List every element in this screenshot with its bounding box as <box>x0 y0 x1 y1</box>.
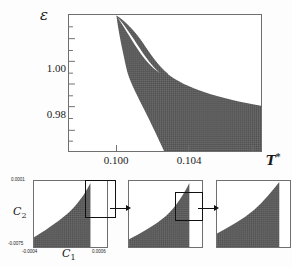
zoom-selection-box-1[interactable] <box>85 180 116 218</box>
zoom-arrow-head-2 <box>214 205 219 211</box>
inset-panel-row: C2 C1 0.0001 -0.0075 -0.0004 0.0006 <box>0 178 292 258</box>
zoom-arrow-head-1 <box>126 205 131 211</box>
inset-panel-3 <box>216 180 291 248</box>
x-tick-label-2: 0.104 <box>177 155 202 166</box>
inset-3-shaded-region <box>217 182 279 247</box>
main-y-axis-ticks: 1.00 0.98 <box>28 14 66 152</box>
main-plot-svg <box>69 15 261 151</box>
inset-x-axis-label-subscript: 1 <box>70 253 75 262</box>
main-plot-panel <box>68 14 262 152</box>
y-tick-label-2: 0.98 <box>32 109 66 120</box>
figure-root: 1.00 0.98 ε <box>0 0 292 267</box>
inset-x-axis-label: C1 <box>62 248 76 262</box>
inset-y-tick-top: 0.0001 <box>11 178 25 183</box>
inset-x-tick-right: 0.0006 <box>92 250 106 255</box>
main-x-axis-ticks: 0.100 0.104 <box>68 155 262 171</box>
main-y-axis-label: ε <box>40 8 48 23</box>
inset-y-axis-label-subscript: 2 <box>21 211 26 220</box>
inset-y-axis-label: C2 <box>13 206 27 220</box>
x-tick-label-1: 0.100 <box>104 155 129 166</box>
inset-plot-3-svg <box>217 181 290 247</box>
y-tick-label-1: 1.00 <box>32 63 66 74</box>
main-x-axis-label-superscript: * <box>276 152 281 162</box>
main-x-axis-label-text: T <box>266 153 276 168</box>
inset-y-tick-bottom: -0.0075 <box>8 242 23 247</box>
zoom-selection-box-2[interactable] <box>175 192 203 221</box>
inset-1-shaded-region <box>34 183 90 247</box>
main-x-axis-label: T* <box>266 153 280 167</box>
inset-x-tick-left: -0.0004 <box>22 250 37 255</box>
